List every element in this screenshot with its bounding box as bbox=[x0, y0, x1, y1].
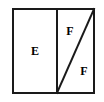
outer-rectangle bbox=[13, 9, 94, 93]
figure-canvas bbox=[0, 0, 104, 102]
region-label-f-upper: F bbox=[66, 25, 73, 37]
geometry-figure: E F F bbox=[0, 0, 104, 102]
region-label-e: E bbox=[31, 45, 39, 57]
region-label-f-lower: F bbox=[80, 65, 87, 77]
